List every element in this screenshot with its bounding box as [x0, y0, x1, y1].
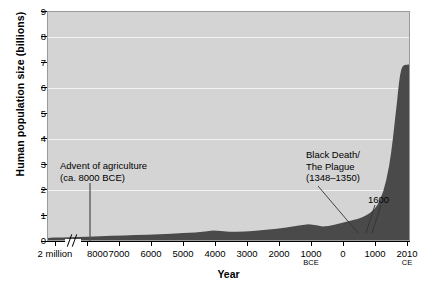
x-tickmark-8 [311, 241, 312, 246]
x-axis-title: Year [47, 268, 410, 280]
population-growth-chart: Human population size (billions) 9 8 7 6… [0, 0, 432, 289]
x-tickmark-3 [151, 241, 152, 246]
x-tickmark-7 [279, 241, 280, 246]
plot-area [47, 11, 410, 241]
x-tickmark-5 [215, 241, 216, 246]
x-tickmark-6 [247, 241, 248, 246]
x-tick-sublabel-ce: CE [387, 258, 427, 267]
x-tick-sublabel-bce: BCE [291, 258, 331, 267]
annotation-advent-of-agriculture: Advent of agriculture (ca. 8000 BCE) [60, 160, 147, 183]
x-tickmark-9 [343, 241, 344, 246]
x-tickmark-10 [375, 241, 376, 246]
x-tickmark-1 [87, 241, 88, 246]
x-tickmark-4 [183, 241, 184, 246]
axis-break-icon [66, 234, 80, 248]
x-tick-label-0: 2 million [25, 248, 85, 259]
y-axis-title: Human population size (billions) [14, 0, 26, 210]
population-area-series [48, 12, 409, 240]
annotation-year-1600: 1600 [368, 194, 389, 206]
x-tickmark-0 [55, 241, 56, 246]
annotation-black-death: Black Death/ The Plague (1348–1350) [306, 149, 360, 184]
x-tickmark-2 [119, 241, 120, 246]
x-tickmark-11 [407, 241, 408, 246]
x-axis-line [47, 241, 410, 242]
